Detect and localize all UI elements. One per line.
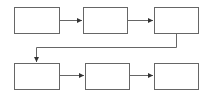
- arrow-3-to-4: [37, 34, 177, 63]
- process-box-1: [15, 8, 60, 34]
- process-box-3: [155, 8, 199, 34]
- process-box-2: [84, 8, 128, 34]
- process-box-5: [86, 64, 130, 90]
- flowchart-diagram: [0, 0, 209, 93]
- process-box-6: [155, 64, 199, 90]
- process-box-4: [15, 64, 60, 90]
